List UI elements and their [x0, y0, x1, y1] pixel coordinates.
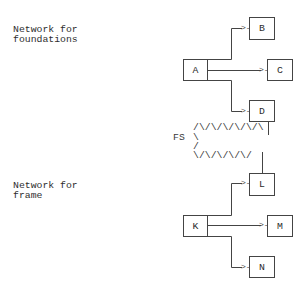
fs-zigzag-row1: /\/\/\/\/\/\: [193, 123, 264, 133]
fs-label: FS: [173, 133, 185, 143]
node-k: K: [183, 215, 208, 237]
node-c: C: [267, 59, 293, 81]
node-l: L: [249, 173, 275, 196]
fs-zigzag-row4: \/\/\/\/\/: [193, 151, 252, 161]
node-b: B: [249, 17, 275, 40]
node-m: M: [267, 215, 293, 237]
node-n: N: [249, 256, 275, 278]
node-d: D: [249, 100, 275, 122]
connector-lines: [0, 0, 307, 288]
node-a: A: [183, 59, 208, 81]
